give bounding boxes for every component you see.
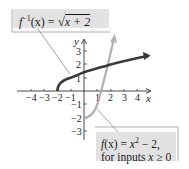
label-inverse-radicand: x + 2 (65, 14, 90, 29)
y-tick-label: 3 (76, 46, 81, 57)
label-f-expr-b: − 2, (139, 138, 160, 150)
label-inverse-function: f−1(x) = √x + 2 (13, 9, 109, 28)
x-axis-label: x (145, 92, 151, 104)
x-tick-label: −2 (52, 92, 63, 103)
label-f-line2b: ≥ 0 (153, 151, 171, 163)
y-axis-label: y (73, 35, 79, 47)
y-tick-label: −1 (71, 99, 82, 110)
x-tick-label: −3 (39, 92, 50, 103)
x-tick-label: 3 (122, 92, 127, 103)
label-function-line2: for inputs x ≥ 0 (101, 151, 176, 164)
label-inverse-sup: −1 (22, 14, 31, 23)
label-function: f(x) = x2 − 2, for inputs x ≥ 0 (96, 132, 176, 161)
leader-line-inverse (38, 29, 70, 74)
sqrt-symbol: √ (58, 14, 65, 29)
label-f-expr-a: (x) = (104, 138, 130, 150)
y-tick-label: −3 (71, 126, 82, 137)
y-tick-label: 2 (76, 59, 81, 70)
label-function-line1: f(x) = x2 − 2, (101, 134, 176, 151)
x-tick-label: 4 (135, 92, 140, 103)
label-f-line2a: for inputs (101, 151, 148, 163)
x-tick-label: −4 (26, 92, 37, 103)
curve-f (84, 36, 116, 118)
label-inverse-arg: (x) = (31, 15, 58, 29)
y-axis (82, 39, 87, 140)
leader-line-f (97, 109, 118, 132)
y-tick-label: −2 (71, 113, 82, 124)
x-tick-label: 2 (108, 92, 113, 103)
